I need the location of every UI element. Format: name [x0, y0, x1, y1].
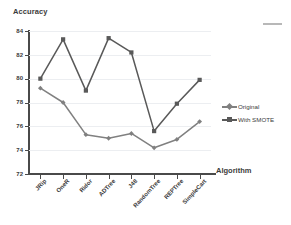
data-point-reptree: [175, 102, 179, 106]
accuracy-line-chart: Accuracy Algorithm 72747678808284 JRipOn…: [0, 0, 291, 225]
legend-item-original[interactable]: Original: [222, 101, 290, 112]
legend-item-with-smote[interactable]: With SMOTE: [222, 114, 290, 125]
chart-legend: Original With SMOTE: [222, 101, 290, 127]
series-original: [38, 86, 202, 150]
legend-swatch-with-smote: [222, 116, 237, 124]
data-point-oner: [61, 37, 65, 41]
decorative-line-artifact: [263, 23, 282, 25]
legend-label-with-smote: With SMOTE: [238, 116, 274, 123]
data-point-randomtree: [152, 129, 156, 133]
data-point-j48: [129, 50, 133, 54]
series-line: [40, 38, 199, 131]
data-point-simplecart: [198, 78, 202, 82]
data-point-jrip: [38, 77, 42, 81]
data-point-adtree: [107, 36, 111, 40]
legend-label-original: Original: [238, 103, 259, 110]
legend-swatch-original: [222, 103, 237, 111]
data-point-adtree: [106, 136, 111, 141]
series-with-smote: [38, 36, 201, 133]
data-point-ridor: [84, 88, 88, 92]
